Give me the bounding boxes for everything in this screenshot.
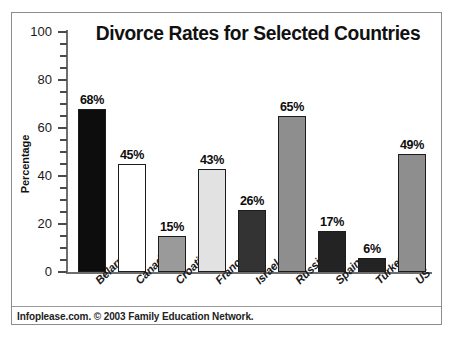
- bar: [78, 109, 106, 272]
- footer-divider: [12, 306, 441, 307]
- bar-value-label: 6%: [350, 242, 394, 256]
- footer-credit: Infoplease.com. © 2003 Family Education …: [17, 311, 254, 322]
- bar-value-label: 65%: [270, 100, 314, 114]
- bar-value-label: 68%: [70, 93, 114, 107]
- chart-figure: Divorce Rates for Selected Countries Per…: [0, 0, 454, 338]
- bar: [278, 116, 306, 272]
- bar: [238, 210, 266, 272]
- bar: [398, 154, 426, 272]
- y-tick-label: 60: [18, 121, 52, 134]
- bar-value-label: 26%: [230, 194, 274, 208]
- y-tick-label: 80: [18, 73, 52, 86]
- y-tick-label: 40: [18, 169, 52, 182]
- y-tick-label: 100: [18, 25, 52, 38]
- bar: [318, 231, 346, 272]
- bar-value-label: 49%: [390, 138, 434, 152]
- bar: [118, 164, 146, 272]
- y-axis-tick-labels: 100806040200: [14, 0, 52, 338]
- y-tick-label: 0: [18, 265, 52, 278]
- bar-value-label: 17%: [310, 215, 354, 229]
- bar: [198, 169, 226, 272]
- bar-value-label: 45%: [110, 148, 154, 162]
- bar-value-label: 43%: [190, 153, 234, 167]
- bar: [358, 258, 386, 272]
- bar-value-label: 15%: [150, 220, 194, 234]
- bar: [158, 236, 186, 272]
- y-tick-label: 20: [18, 217, 52, 230]
